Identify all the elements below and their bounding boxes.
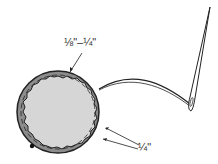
leader-line-bottom-1 [106, 128, 139, 145]
thread [99, 79, 190, 104]
leader-line-bottom-2 [103, 139, 138, 149]
needle [189, 7, 210, 111]
fabric-circle-inner [23, 76, 97, 149]
label-top-margin: ⅛"–¼" [64, 36, 96, 48]
thread-knot [30, 144, 34, 148]
fabric-circle-diagram [0, 0, 218, 164]
label-bottom-margin: ¼" [138, 141, 151, 153]
